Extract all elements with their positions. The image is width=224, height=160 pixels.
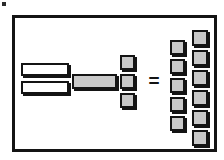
result-column-right-square-6 [192, 130, 208, 146]
result-column-right-square-3 [192, 70, 208, 86]
left-white-bars-bar-1 [21, 63, 69, 76]
result-column-left-square-4 [170, 97, 185, 112]
result-column-right-square-2 [192, 50, 208, 66]
result-column-right-square-5 [192, 110, 208, 126]
result-column-left-square-2 [170, 59, 185, 74]
center-gray-column-square-3 [120, 93, 135, 108]
result-column-right-square-4 [192, 90, 208, 106]
equals-sign: = [146, 72, 162, 90]
page-title: Block multiplication diagram [0, 0, 1, 1]
result-column-left-square-1 [170, 40, 185, 55]
result-column-left-square-5 [170, 116, 185, 131]
left-white-bars-bar-2 [21, 81, 69, 94]
result-column-right-square-1 [192, 30, 208, 46]
center-gray-column-square-1 [120, 55, 135, 70]
result-column-left-square-3 [170, 78, 185, 93]
center-gray-bar-bar-1 [72, 74, 117, 89]
center-gray-column-square-2 [120, 74, 135, 89]
stray-mark-icon [2, 2, 6, 6]
diagram-canvas: = Block multiplication diagram [0, 0, 224, 160]
